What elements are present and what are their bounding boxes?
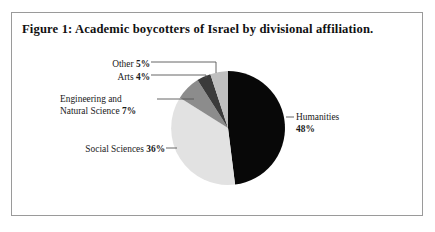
pie-label-humanities: Humanities 48% <box>296 112 376 135</box>
pie-label-social-sciences: Social Sciences 36% <box>58 144 165 156</box>
pie-label-engineering-line2-wrap: Natural Science 7% <box>60 106 156 118</box>
pie-label-arts-text: Arts <box>117 72 133 82</box>
pie-label-other: Other 5% <box>66 59 150 71</box>
pie-label-humanities-percent: 48% <box>296 124 376 136</box>
pie-label-social-sciences-text: Social Sciences <box>85 144 144 154</box>
pie-label-arts-percent: 4% <box>136 72 150 82</box>
pie-label-other-percent: 5% <box>136 59 150 69</box>
pie-label-other-text: Other <box>112 59 133 69</box>
pie-label-engineering-natural-science: Engineering and Natural Science 7% <box>60 94 156 117</box>
figure-title: Figure 1: Academic boycotters of Israel … <box>22 22 414 37</box>
pie-label-social-sciences-percent: 36% <box>146 144 165 154</box>
pie-label-engineering-percent: 7% <box>122 106 136 116</box>
pie-label-humanities-text: Humanities <box>296 112 376 124</box>
pie-label-arts: Arts 4% <box>66 72 150 84</box>
pie-label-engineering-line2: Natural Science <box>60 106 120 116</box>
pie-label-engineering-line1: Engineering and <box>60 94 156 106</box>
